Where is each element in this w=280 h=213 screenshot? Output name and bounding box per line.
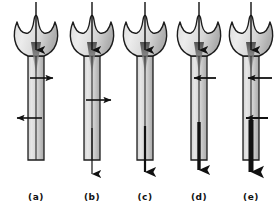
- schematic-figure: (a) (b) (c): [0, 0, 280, 213]
- panel-label-b: (b): [84, 192, 100, 202]
- panel-label-d: (d): [191, 192, 207, 202]
- panel-label-a: (a): [28, 192, 44, 202]
- panel-label-c: (c): [137, 192, 152, 202]
- panel-label-e: (e): [243, 192, 259, 202]
